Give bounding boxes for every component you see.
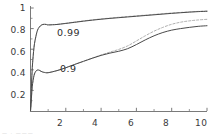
x-tick-label-10: 10 xyxy=(195,118,207,128)
x-tick-label-8: 8 xyxy=(163,118,169,128)
x-tick-label-6: 6 xyxy=(128,118,134,128)
y-tick-label-0.8: 0.8 xyxy=(0,25,26,35)
y-tick-label-1: 1 xyxy=(2,3,26,13)
x-tick-label-4: 4 xyxy=(92,118,98,128)
series-0.9 xyxy=(31,26,208,111)
chart-plot-area: 1 0.8 0.6 0.4 0.2 2 4 6 8 10 0.99 0.9 — … xyxy=(0,0,212,138)
y-tick-label-0.2: 0.2 xyxy=(0,90,26,100)
curve-annotation-0.9: 0.9 xyxy=(60,63,77,74)
x-tick-label-2: 2 xyxy=(57,118,63,128)
series-0.99-dashed xyxy=(31,11,208,111)
chart-canvas xyxy=(0,0,212,138)
y-tick-label-0.6: 0.6 xyxy=(0,47,26,57)
curve-annotation-0.99: 0.99 xyxy=(57,27,80,38)
scan-artifact-text: — · ——— xyxy=(2,130,34,136)
y-tick-label-0.4: 0.4 xyxy=(0,68,26,78)
